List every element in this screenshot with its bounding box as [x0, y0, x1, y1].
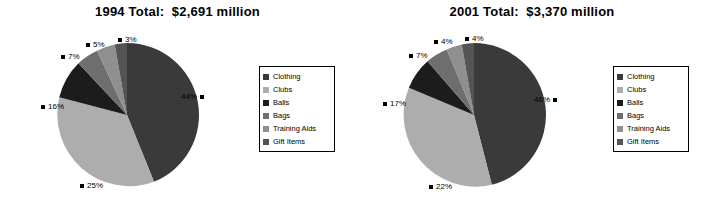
- legend-item-gift-items: Gift Items: [617, 135, 686, 148]
- legend-item-clubs: Clubs: [617, 83, 686, 96]
- callout-1994-bags: 7%: [61, 52, 80, 61]
- legend-swatch-icon: [263, 74, 269, 80]
- legend-item-training-aids: Training Aids: [617, 122, 686, 135]
- chart-title-1994: 1994 Total: $2,691 million: [0, 4, 355, 19]
- legend-swatch-icon: [263, 87, 269, 93]
- callout-1994-training-aids: 5%: [86, 40, 105, 49]
- callout-2001-training-aids: 4%: [434, 37, 453, 46]
- legend-swatch-icon: [617, 126, 623, 132]
- callout-marker-icon: [553, 98, 557, 102]
- legend-1994: Clothing Clubs Balls Bags Training Aids …: [259, 66, 335, 152]
- callout-marker-icon: [200, 95, 204, 99]
- callout-marker-icon: [383, 102, 387, 106]
- legend-swatch-icon: [617, 139, 623, 145]
- legend-item-gift-items: Gift Items: [263, 135, 332, 148]
- callout-marker-icon: [429, 185, 433, 189]
- callout-marker-icon: [80, 184, 84, 188]
- callout-marker-icon: [118, 38, 122, 42]
- callout-marker-icon: [61, 55, 65, 59]
- legend-item-bags: Bags: [263, 109, 332, 122]
- pie-chart-1994: [52, 40, 202, 190]
- callout-1994-balls: 16%: [41, 102, 64, 111]
- callout-marker-icon: [465, 37, 469, 41]
- pie-svg-1994: [52, 40, 202, 190]
- legend-item-bags: Bags: [617, 109, 686, 122]
- callout-marker-icon: [41, 105, 45, 109]
- pie-chart-2001: [399, 40, 549, 190]
- callout-marker-icon: [434, 40, 438, 44]
- legend-swatch-icon: [617, 74, 623, 80]
- pie-svg-2001: [399, 40, 549, 190]
- legend-swatch-icon: [263, 139, 269, 145]
- legend-item-training-aids: Training Aids: [263, 122, 332, 135]
- callout-1994-gift-items: 3%: [118, 35, 137, 44]
- chart-panel-2001: 2001 Total: $3,370 million 46%: [355, 0, 709, 202]
- legend-item-clothing: Clothing: [617, 70, 686, 83]
- callout-1994-clubs: 25%: [80, 181, 103, 190]
- legend-swatch-icon: [617, 87, 623, 93]
- legend-swatch-icon: [263, 100, 269, 106]
- callout-marker-icon: [86, 43, 90, 47]
- legend-2001: Clothing Clubs Balls Bags Training Aids …: [613, 66, 689, 152]
- legend-item-clubs: Clubs: [263, 83, 332, 96]
- legend-item-clothing: Clothing: [263, 70, 332, 83]
- callout-2001-clubs: 22%: [429, 182, 452, 191]
- pie-charts-page: 1994 Total: $2,691 million 44%: [0, 0, 709, 202]
- callout-2001-clothing: 46%: [534, 95, 557, 104]
- callout-2001-bags: 7%: [409, 51, 428, 60]
- legend-item-balls: Balls: [263, 96, 332, 109]
- callout-1994-clothing: 44%: [181, 92, 204, 101]
- chart-panel-1994: 1994 Total: $2,691 million 44%: [0, 0, 355, 202]
- callout-2001-gift-items: 4%: [465, 34, 484, 43]
- legend-swatch-icon: [617, 113, 623, 119]
- callout-marker-icon: [409, 54, 413, 58]
- callout-2001-balls: 17%: [383, 99, 406, 108]
- legend-item-balls: Balls: [617, 96, 686, 109]
- legend-swatch-icon: [263, 113, 269, 119]
- chart-title-2001: 2001 Total: $3,370 million: [355, 4, 709, 19]
- legend-swatch-icon: [617, 100, 623, 106]
- legend-swatch-icon: [263, 126, 269, 132]
